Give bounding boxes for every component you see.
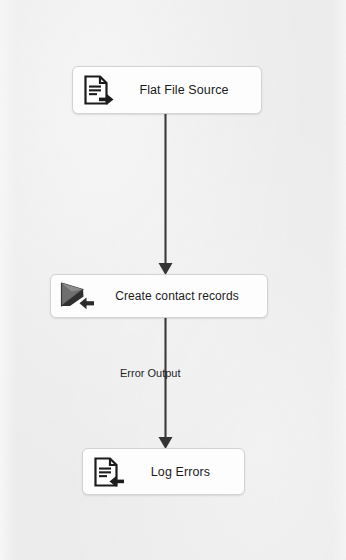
connector-label-error-output: Error Output <box>120 367 181 379</box>
diagram-canvas[interactable]: Error Output Flat File Source <box>0 0 346 560</box>
document-arrow-right-icon <box>81 73 115 107</box>
node-flat-file-source[interactable]: Flat File Source <box>72 66 262 114</box>
node-label-flat-file-source: Flat File Source <box>115 83 261 97</box>
node-log-errors[interactable]: Log Errors <box>82 448 245 495</box>
node-create-contact-records[interactable]: Create contact records <box>50 274 268 318</box>
node-label-create-contact-records: Create contact records <box>95 289 267 303</box>
node-label-log-errors: Log Errors <box>125 465 244 479</box>
document-arrow-left-icon <box>91 455 125 489</box>
script-component-arrow-left-icon <box>59 279 95 313</box>
